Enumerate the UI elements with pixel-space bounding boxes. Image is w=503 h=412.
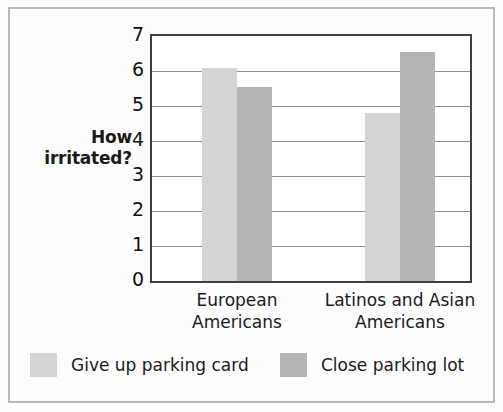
x-axis-label-group-1-line-1: Americans	[300, 311, 500, 333]
y-axis-tick-6: 6	[120, 60, 144, 79]
legend-label-0: Give up parking card	[71, 355, 249, 375]
y-axis-tick-2: 2	[120, 200, 144, 219]
legend-label-1: Close parking lot	[321, 355, 464, 375]
y-axis-tick-5: 5	[120, 95, 144, 114]
legend-swatch-1	[280, 353, 307, 377]
legend-item-1[interactable]: Close parking lot	[280, 353, 464, 377]
bar-0-1	[237, 87, 272, 281]
legend-item-0[interactable]: Give up parking card	[30, 353, 249, 377]
legend-swatch-0	[30, 353, 57, 377]
bar-1-1	[400, 52, 435, 281]
y-axis-tick-3: 3	[120, 165, 144, 184]
bar-0-0	[202, 68, 237, 282]
x-axis-label-group-1-line-0: Latinos and Asian	[300, 289, 500, 311]
plot-area	[150, 34, 472, 283]
x-axis-label-group-1: Latinos and AsianAmericans	[300, 289, 500, 333]
chart-legend: Give up parking cardClose parking lot	[30, 353, 475, 387]
y-axis-tick-1: 1	[120, 235, 144, 254]
y-axis-tick-labels: 76543210	[112, 34, 144, 283]
y-axis-tick-4: 4	[120, 130, 144, 149]
y-axis-tick-0: 0	[120, 270, 144, 289]
chart-figure: How irritated? 76543210 EuropeanAmerican…	[0, 0, 503, 412]
bar-1-0	[365, 113, 400, 281]
y-axis-tick-7: 7	[120, 25, 144, 44]
plot-inner	[152, 36, 470, 281]
